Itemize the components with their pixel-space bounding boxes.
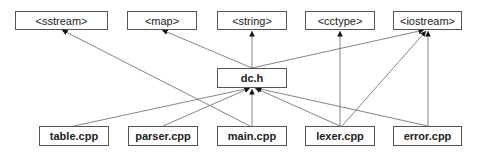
edge-dc-map	[162, 30, 252, 68]
edge-error-dc	[256, 88, 428, 126]
node-map: <map>	[127, 11, 197, 30]
edge-table-dc	[74, 88, 250, 126]
node-lexer-cpp: lexer.cpp	[305, 126, 375, 146]
node-iostream: <iostream>	[393, 11, 462, 30]
node-label: <map>	[145, 15, 179, 27]
node-parser-cpp: parser.cpp	[128, 126, 198, 146]
node-label: error.cpp	[404, 130, 452, 142]
node-label: <iostream>	[400, 15, 455, 27]
node-cctype: <cctype>	[305, 11, 375, 30]
node-label: dc.h	[241, 72, 264, 84]
node-label: <cctype>	[318, 15, 363, 27]
node-label: table.cpp	[50, 130, 98, 142]
node-label: main.cpp	[228, 130, 276, 142]
node-sstream: <sstream>	[15, 11, 108, 30]
node-label: parser.cpp	[135, 130, 191, 142]
node-error-cpp: error.cpp	[393, 126, 462, 146]
node-label: <sstream>	[36, 15, 88, 27]
edge-lexer-dc	[255, 88, 340, 126]
node-label: <string>	[232, 15, 272, 27]
node-string: <string>	[217, 11, 287, 30]
node-table-cpp: table.cpp	[39, 126, 109, 146]
edge-parser-dc	[163, 88, 250, 126]
node-dc-h: dc.h	[217, 68, 287, 88]
node-label: lexer.cpp	[316, 130, 364, 142]
node-main-cpp: main.cpp	[217, 126, 287, 146]
